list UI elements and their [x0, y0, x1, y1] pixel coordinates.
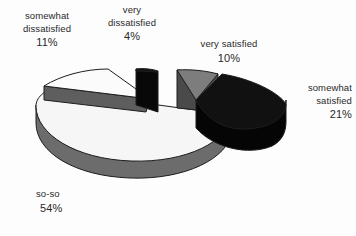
label-so-so-percent: 54% [36, 201, 116, 215]
pie-chart-image: somewhat dissatisfied 11% very dissatisf… [0, 0, 356, 236]
label-very-satisfied-line1: very satisfied [201, 38, 258, 49]
label-so-so-line1: so-so [36, 188, 60, 199]
label-somewhat-satisfied-line2: satisfied [316, 95, 352, 106]
label-very-dissatisfied: very dissatisfied 4% [96, 4, 168, 43]
label-somewhat-dissatisfied-percent: 11% [8, 35, 86, 49]
label-somewhat-satisfied-line1: somewhat [308, 82, 352, 93]
label-very-satisfied: very satisfied 10% [184, 38, 274, 65]
label-very-dissatisfied-line1: very [123, 4, 141, 15]
label-very-satisfied-percent: 10% [184, 51, 274, 65]
label-somewhat-dissatisfied-line1: somewhat [25, 10, 69, 21]
label-so-so: so-so 54% [36, 188, 116, 215]
label-somewhat-satisfied-percent: 21% [268, 107, 352, 121]
slice-very-dissatisfied-top [136, 69, 158, 72]
label-somewhat-dissatisfied-line2: dissatisfied [23, 23, 71, 34]
label-very-dissatisfied-percent: 4% [96, 29, 168, 43]
label-somewhat-satisfied: somewhat satisfied 21% [268, 82, 352, 121]
label-somewhat-dissatisfied: somewhat dissatisfied 11% [8, 10, 86, 49]
label-very-dissatisfied-line2: dissatisfied [108, 17, 156, 28]
slice-very-dissatisfied [136, 69, 158, 112]
slice-very-dissatisfied-wall [136, 69, 158, 112]
